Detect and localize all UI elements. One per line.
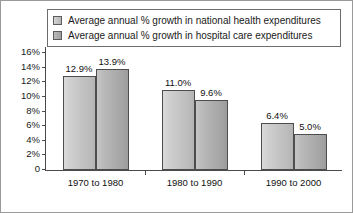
y-axis-tick-label: 10% [21, 90, 40, 101]
legend-entry-series-1: Average annual % growth in national heal… [53, 13, 335, 28]
x-axis-category-label: 1970 to 1980 [68, 177, 123, 188]
bar-group-bars: 6.4%5.0% [244, 47, 343, 170]
plot-area: 16%14%12%10%8%6%4%2%0 12.9%13.9%11.0%9.6… [45, 47, 342, 171]
bar[interactable] [96, 69, 129, 170]
bar-group: 12.9%13.9% [46, 47, 145, 170]
x-axis-category-label: 1980 to 1990 [167, 177, 222, 188]
bar-group-bars: 11.0%9.6% [145, 47, 244, 170]
x-axis-category-label: 1990 to 2000 [266, 177, 321, 188]
bar[interactable] [294, 134, 327, 170]
bar-value-label: 11.0% [165, 77, 191, 88]
bar-column: 13.9% [96, 69, 129, 170]
y-axis-tick-label: 4% [26, 134, 40, 145]
y-axis-tick-label: 16% [21, 46, 40, 57]
bar-column: 5.0% [294, 134, 327, 170]
bar-value-label: 6.4% [266, 110, 288, 121]
y-axis-tick-label: 12% [21, 75, 40, 86]
y-axis-tick-label: 0 [35, 163, 40, 174]
chart-figure: Average annual % growth in national heal… [0, 0, 353, 213]
legend-label-series-1: Average annual % growth in national heal… [68, 15, 321, 26]
bar-group: 11.0%9.6% [145, 47, 244, 170]
bar[interactable] [162, 90, 195, 170]
bar-column: 12.9% [63, 76, 96, 170]
y-axis-tick-label: 2% [26, 148, 40, 159]
x-axis-separator-tick [145, 170, 146, 175]
bar-group-bars: 12.9%13.9% [46, 47, 145, 170]
bar-value-label: 13.9% [99, 56, 126, 67]
bar[interactable] [261, 123, 294, 170]
legend-swatch-icon-series-1 [53, 16, 62, 25]
chart-legend: Average annual % growth in national heal… [47, 9, 341, 47]
y-axis-tick-label: 14% [21, 61, 40, 72]
bar-value-label: 12.9% [66, 63, 93, 74]
bar-column: 11.0% [162, 90, 195, 170]
legend-entry-series-2: Average annual % growth in hospital care… [53, 28, 335, 43]
y-axis-tick-label: 8% [26, 105, 40, 116]
bar[interactable] [195, 100, 228, 170]
bar-group: 6.4%5.0% [244, 47, 343, 170]
y-axis-tick-label: 6% [26, 119, 40, 130]
bar[interactable] [63, 76, 96, 170]
x-axis-separator-tick [244, 170, 245, 175]
bar-value-label: 9.6% [200, 87, 222, 98]
legend-label-series-2: Average annual % growth in hospital care… [68, 30, 312, 41]
bar-column: 9.6% [195, 100, 228, 170]
legend-swatch-icon-series-2 [53, 31, 62, 40]
bar-value-label: 5.0% [299, 121, 321, 132]
bar-column: 6.4% [261, 123, 294, 170]
